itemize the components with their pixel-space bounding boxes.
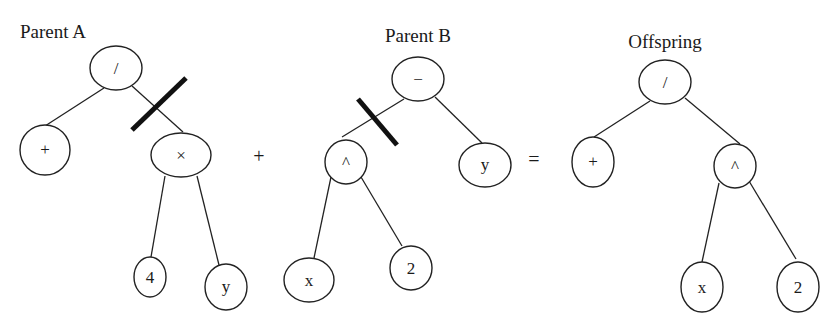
svg-text:2: 2 xyxy=(794,278,803,297)
offspring-tree: Offspring / + ^ x 2 xyxy=(572,31,819,312)
svg-text:+: + xyxy=(588,152,598,171)
svg-text:y: y xyxy=(222,277,231,296)
tree-node: × xyxy=(151,133,211,177)
parent-a-tree: Parent A / + × 4 y xyxy=(20,21,247,310)
plus-operator: + xyxy=(253,145,264,167)
parent-a-title: Parent A xyxy=(20,21,86,42)
tree-node: x xyxy=(284,258,334,302)
svg-text:/: / xyxy=(663,73,668,92)
tree-node: − xyxy=(392,57,444,101)
tree-node: / xyxy=(639,60,691,104)
crossover-diagram: Parent A / + × 4 y + Parent B xyxy=(0,0,837,335)
cut-mark xyxy=(132,78,186,130)
tree-node: ^ xyxy=(714,144,756,188)
equals-operator: = xyxy=(528,148,539,170)
svg-text:/: / xyxy=(114,59,119,78)
tree-node: y xyxy=(459,143,511,187)
tree-node: 2 xyxy=(390,246,432,290)
tree-node: / xyxy=(90,46,142,90)
parent-b-title: Parent B xyxy=(385,25,451,46)
tree-node: 2 xyxy=(777,262,819,312)
tree-node: ^ xyxy=(325,140,367,184)
parent-b-tree: Parent B − ^ y x 2 xyxy=(284,25,511,302)
tree-node: + xyxy=(572,137,614,187)
svg-text:^: ^ xyxy=(342,153,350,172)
svg-text:−: − xyxy=(413,70,423,89)
svg-text:+: + xyxy=(40,140,50,159)
cut-mark xyxy=(358,99,397,145)
tree-node: + xyxy=(20,125,70,175)
svg-text:2: 2 xyxy=(407,259,416,278)
svg-text:y: y xyxy=(481,155,490,174)
svg-text:4: 4 xyxy=(146,268,155,287)
offspring-title: Offspring xyxy=(628,31,702,52)
svg-text:^: ^ xyxy=(731,157,739,176)
svg-text:×: × xyxy=(176,146,186,165)
svg-text:x: x xyxy=(698,278,707,297)
tree-node: 4 xyxy=(134,257,166,297)
tree-node: y xyxy=(205,264,247,310)
tree-node: x xyxy=(681,262,723,312)
svg-text:x: x xyxy=(305,271,314,290)
